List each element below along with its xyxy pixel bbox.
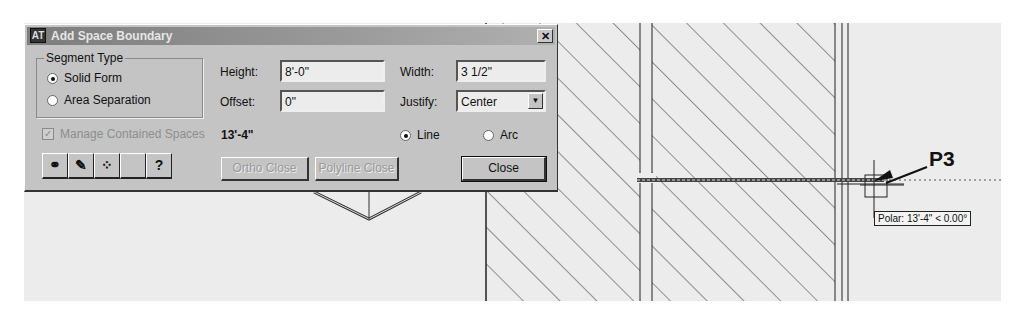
radio-selected-icon <box>400 130 411 141</box>
dialog-title-bar[interactable]: AT Add Space Boundary ✕ <box>27 27 555 45</box>
segment-type-group: Segment Type Solid Form Area Separation <box>36 58 203 118</box>
segment-type-legend: Segment Type <box>44 51 125 65</box>
justify-label: Justify: <box>400 95 437 109</box>
match-properties-button[interactable]: ⚭ <box>42 153 68 179</box>
radio-line[interactable]: Line <box>400 128 440 142</box>
height-label: Height: <box>220 65 258 79</box>
radio-label: Arc <box>500 128 518 142</box>
length-readout: 13'-4" <box>221 128 254 142</box>
height-input[interactable]: 8'-0" <box>280 60 385 82</box>
radio-selected-icon <box>47 73 58 84</box>
wall-hatch-center <box>652 23 835 301</box>
dialog-title: Add Space Boundary <box>51 28 172 44</box>
match-properties-icon: ⚭ <box>49 157 61 173</box>
polyline-close-button[interactable]: Polyline Close <box>315 157 399 181</box>
close-button[interactable]: Close <box>462 157 546 181</box>
paint-brush-icon: ✎ <box>75 157 87 173</box>
radio-arc[interactable]: Arc <box>483 128 518 142</box>
chevron-down-icon[interactable]: ▼ <box>528 93 543 109</box>
justify-dropdown[interactable]: Center ▼ <box>456 90 546 112</box>
justify-value: Center <box>461 95 497 109</box>
blank-toolbar-button[interactable] <box>120 153 146 179</box>
help-icon: ? <box>155 157 164 173</box>
manage-contained-spaces-checkbox[interactable]: ✓ Manage Contained Spaces <box>42 127 205 141</box>
radio-unselected-icon <box>47 95 58 106</box>
radio-label: Line <box>417 128 440 142</box>
offset-input[interactable]: 0" <box>280 90 385 112</box>
polar-tracking-tooltip: Polar: 13'-4" < 0.00° <box>874 211 971 226</box>
app-icon: AT <box>30 28 46 43</box>
close-icon[interactable]: ✕ <box>537 29 553 43</box>
style-icon: ⁘ <box>101 157 113 173</box>
style-button[interactable]: ⁘ <box>94 153 120 179</box>
radio-unselected-icon <box>483 130 494 141</box>
offset-label: Offset: <box>220 95 255 109</box>
width-input[interactable]: 3 1/2" <box>456 60 546 82</box>
paint-brush-button[interactable]: ✎ <box>68 153 94 179</box>
radio-label: Area Separation <box>64 93 151 107</box>
radio-area-separation[interactable]: Area Separation <box>47 93 151 107</box>
radio-solid-form[interactable]: Solid Form <box>47 71 122 85</box>
checkmark-icon: ✓ <box>42 128 54 140</box>
ortho-close-button[interactable]: Ortho Close <box>221 157 309 181</box>
radio-label: Solid Form <box>64 71 122 85</box>
width-label: Width: <box>400 65 434 79</box>
help-button[interactable]: ? <box>146 153 172 179</box>
add-space-boundary-dialog: AT Add Space Boundary ✕ Segment Type Sol… <box>24 24 558 192</box>
checkbox-label: Manage Contained Spaces <box>60 127 205 141</box>
point-callout-label: P3 <box>929 147 955 171</box>
